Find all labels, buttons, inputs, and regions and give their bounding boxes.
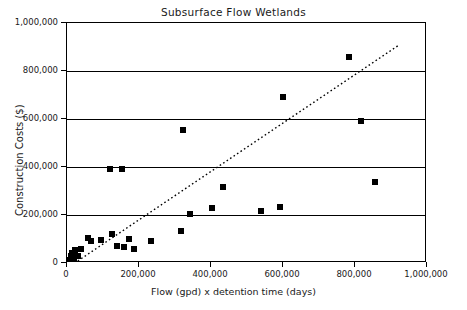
x-tick-mark xyxy=(426,262,427,267)
x-axis-label: Flow (gpd) x detention time (days) xyxy=(0,286,467,297)
x-tick-mark xyxy=(210,262,211,267)
x-tick-mark xyxy=(354,262,355,267)
chart-container: Subsurface Flow Wetlands 0200,000400,000… xyxy=(0,0,467,310)
x-axis-tick-marks xyxy=(0,0,467,310)
x-tick-mark xyxy=(282,262,283,267)
x-tick-mark xyxy=(138,262,139,267)
y-axis-label: Construction Costs ($) xyxy=(14,104,25,216)
x-tick-mark xyxy=(66,262,67,267)
